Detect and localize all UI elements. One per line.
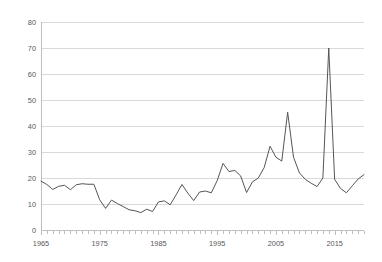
y-tick-label: 60 — [28, 70, 36, 79]
gridlines-group — [41, 23, 364, 231]
x-tick-label: 1985 — [150, 239, 166, 248]
x-tick-label: 2005 — [268, 239, 284, 248]
x-tick-label: 1965 — [33, 239, 49, 248]
y-tick-label: 70 — [28, 44, 36, 53]
series-line-1 — [41, 48, 364, 213]
y-tick-label: 0 — [32, 226, 36, 235]
line-chart: 01020304050607080 1965197519851995200520… — [0, 0, 382, 262]
y-tick-label: 80 — [28, 18, 36, 27]
y-tick-label: 40 — [28, 122, 36, 131]
y-axis-tick-labels: 01020304050607080 — [28, 18, 36, 235]
y-tick-label: 10 — [28, 200, 36, 209]
x-tick-label: 2015 — [326, 239, 342, 248]
data-series-group — [41, 48, 364, 213]
y-tick-label: 20 — [28, 174, 36, 183]
x-axis-tick-labels: 196519751985199520052015 — [33, 239, 343, 248]
x-tick-label: 1975 — [92, 239, 108, 248]
x-axis-tick-marks — [42, 231, 365, 235]
x-tick-label: 1995 — [209, 239, 225, 248]
chart-canvas: 01020304050607080 1965197519851995200520… — [0, 0, 382, 262]
y-tick-label: 50 — [28, 96, 36, 105]
y-tick-label: 30 — [28, 148, 36, 157]
